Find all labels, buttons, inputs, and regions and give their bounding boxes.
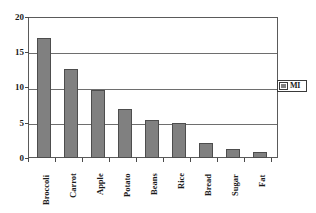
legend-label-mi: MI	[290, 82, 300, 90]
x-label-potato: Potato	[123, 173, 132, 197]
x-label-carrot: Carrot	[69, 173, 78, 198]
y-tick-label-20: 20	[2, 13, 24, 22]
y-tick-label-10: 10	[2, 83, 24, 92]
x-tick-mark-0	[28, 158, 29, 162]
x-tick-mark-6	[190, 158, 191, 162]
x-label-beans: Beans	[150, 173, 159, 195]
x-tick-mark-7	[217, 158, 218, 162]
x-tick-mark-4	[136, 158, 137, 162]
x-tick-mark-3	[109, 158, 110, 162]
x-label-rice: Rice	[177, 173, 186, 189]
x-label-apple: Apple	[96, 173, 105, 195]
x-tick-mark-9	[271, 158, 272, 162]
x-label-sugar: Sugar	[231, 174, 240, 196]
y-tick-mark-10	[25, 87, 29, 88]
y-tick-label-0: 0	[2, 154, 24, 163]
y-tick-mark-5	[25, 123, 29, 124]
y-tick-label-15: 15	[2, 48, 24, 57]
x-label-bread: Bread	[204, 174, 213, 196]
y-tick-mark-15	[25, 52, 29, 53]
x-tick-mark-8	[244, 158, 245, 162]
y-tick-label-5: 5	[2, 119, 24, 128]
bar-chart: 20 15 10 5 0 Broccoli Carrot Apple Potat…	[0, 0, 316, 213]
legend-swatch-icon	[279, 82, 288, 90]
x-tick-mark-5	[163, 158, 164, 162]
x-tick-mark-2	[82, 158, 83, 162]
y-tick-mark-20	[25, 17, 29, 18]
x-label-fat: Fat	[258, 175, 267, 187]
legend-swatch-fill	[281, 84, 286, 88]
x-label-broccoli: Broccoli	[42, 175, 51, 205]
x-tick-mark-1	[55, 158, 56, 162]
legend: MI	[277, 80, 307, 92]
